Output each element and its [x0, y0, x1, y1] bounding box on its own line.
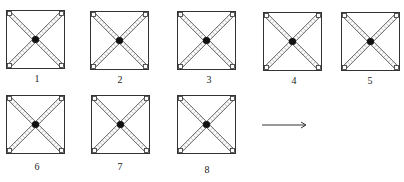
- figure-label: 4: [284, 75, 304, 86]
- figure-2: [90, 11, 150, 71]
- figure-label: 3: [199, 74, 219, 85]
- figure-1: [6, 10, 66, 70]
- figure-3: [177, 11, 237, 71]
- figure-label: 5: [360, 75, 380, 86]
- figure-5: [341, 12, 401, 72]
- figure-8: [177, 95, 237, 155]
- figure-label: 2: [110, 74, 130, 85]
- figure-label: 1: [27, 73, 47, 84]
- figure-label: 8: [197, 164, 217, 175]
- figure-4: [263, 12, 323, 72]
- figure-label: 6: [27, 161, 47, 172]
- right-arrow-icon: [262, 116, 308, 134]
- figure-label: 7: [110, 161, 130, 172]
- figure-7: [91, 95, 151, 155]
- figure-6: [6, 95, 66, 155]
